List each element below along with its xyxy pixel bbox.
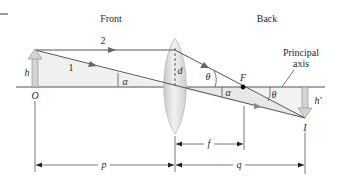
ray-2-refracted-arrowhead (200, 62, 209, 68)
ray-2-label: 2 (101, 35, 106, 46)
theta-right-label: θ (272, 89, 277, 100)
dimension-f-arrow-left (176, 142, 182, 147)
principal-axis-label-line2: axis (293, 58, 309, 69)
ray-1-label: 1 (69, 62, 74, 73)
origin-label: O (31, 90, 38, 101)
dimension-p-arrow-left (36, 163, 42, 168)
focal-point-label: F (239, 72, 247, 83)
object-arrow-shaft (32, 58, 38, 87)
object-height-label: h (25, 67, 30, 78)
alpha-left-label: α (122, 76, 128, 87)
ray-2-arrowhead (108, 47, 116, 53)
dimension-q-arrow-right (298, 163, 304, 168)
front-label: Front (100, 13, 122, 24)
focal-point-dot (241, 85, 246, 90)
thin-lens-ray-diagram: Front Back 2 1 h O d F Principal axis h′… (0, 0, 340, 183)
principal-axis-leader (282, 70, 294, 87)
alpha-right-label: α (225, 87, 231, 98)
principal-axis-label-line1: Principal (283, 47, 319, 58)
dimension-p-arrow-right (168, 163, 174, 168)
dimension-q-label: q (237, 159, 242, 170)
image-point-label: I (302, 122, 307, 133)
image-height-label: h′ (314, 95, 322, 106)
dimension-q-arrow-left (176, 163, 182, 168)
dimension-f-label: f (208, 138, 212, 149)
dimension-f-arrow-right (237, 142, 243, 147)
dimension-p-label: p (101, 159, 107, 170)
theta-left-label: θ (206, 71, 211, 82)
back-label: Back (257, 13, 278, 24)
ray-2-refracted (175, 50, 305, 118)
image-arrow-shaft (302, 87, 308, 109)
ray-1-arrowhead (88, 61, 97, 67)
theta-arc-left (214, 71, 216, 87)
